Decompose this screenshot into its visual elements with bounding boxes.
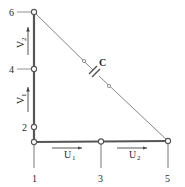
node-4-label: 4 — [9, 64, 14, 75]
node-3 — [98, 139, 103, 144]
diagonal-point-upper — [82, 59, 85, 62]
svg-text:U: U — [129, 149, 137, 160]
node-2-label: 2 — [22, 122, 27, 133]
svg-text:1: 1 — [20, 93, 28, 97]
capacitor-label: C — [99, 57, 106, 68]
node-3-label: 3 — [98, 173, 103, 184]
v1-label: V 1 — [15, 93, 28, 104]
node-6-label: 6 — [9, 7, 14, 18]
u1-label: U 1 — [64, 149, 76, 162]
u2-label: U 2 — [129, 149, 141, 162]
node-1 — [31, 139, 36, 144]
svg-text:1: 1 — [72, 154, 76, 162]
element-diagram: C 6 4 2 1 3 5 V 2 V 1 U 1 U 2 — [0, 0, 185, 187]
node-6 — [31, 9, 36, 14]
svg-text:2: 2 — [20, 37, 28, 41]
node-5 — [165, 138, 170, 143]
node-1-label: 1 — [32, 173, 37, 184]
node-4 — [31, 66, 36, 71]
svg-text:U: U — [64, 149, 72, 160]
svg-text:2: 2 — [137, 154, 141, 162]
diagonal-point-lower — [107, 84, 110, 87]
v2-label: V 2 — [15, 37, 28, 48]
node-5-label: 5 — [165, 173, 170, 184]
node-2 — [31, 124, 36, 129]
